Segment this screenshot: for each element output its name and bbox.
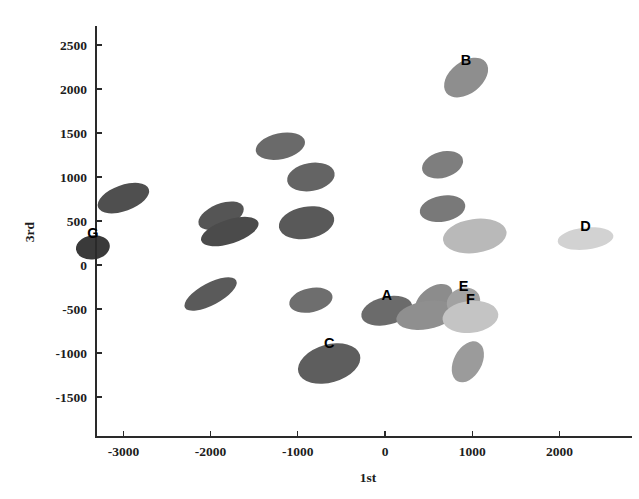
- data-point: [287, 284, 335, 317]
- data-point: [445, 336, 490, 388]
- x-axis-tick-label: 0: [382, 444, 389, 459]
- data-point-layer: [74, 50, 614, 391]
- axis-lines: [96, 26, 632, 437]
- scatter-plot-canvas: -1500-1000-50005001000150020002500-3000-…: [0, 0, 639, 499]
- data-point: [419, 146, 467, 183]
- data-point-label-b: B: [461, 52, 471, 68]
- x-axis-tick-label: -3000: [108, 444, 140, 459]
- data-point: [441, 215, 509, 258]
- y-axis-tick-label: -1000: [56, 346, 88, 361]
- data-point-label-g: G: [87, 225, 98, 241]
- y-axis-tick-label: 2500: [60, 38, 87, 53]
- data-point: [94, 177, 154, 220]
- data-point-label-d: D: [580, 218, 590, 234]
- x-axis-tick-label: 1000: [459, 444, 486, 459]
- data-point: [276, 202, 337, 243]
- axes-layer: -1500-1000-50005001000150020002500-3000-…: [56, 26, 633, 459]
- x-axis-tick-label: 2000: [546, 444, 573, 459]
- y-axis-tick-label: 500: [67, 214, 88, 229]
- y-axis-tick-label: 1000: [60, 170, 87, 185]
- data-point: [285, 159, 337, 195]
- data-point-label-f: F: [466, 291, 475, 307]
- y-axis-tick-label: -500: [62, 302, 87, 317]
- data-point-label-c: C: [324, 335, 335, 351]
- data-point: [253, 128, 307, 164]
- y-axis-tick-label: 0: [80, 258, 87, 273]
- y-axis-tick-label: 1500: [60, 126, 87, 141]
- y-axis-tick-label: 2000: [60, 82, 87, 97]
- data-point-label-a: A: [382, 287, 393, 303]
- y-axis-tick-label: -1500: [56, 390, 88, 405]
- x-axis-title: 1st: [360, 470, 377, 485]
- scatter-plot-figure: -1500-1000-50005001000150020002500-3000-…: [0, 0, 639, 499]
- data-point: [180, 271, 242, 318]
- x-axis-tick-label: -1000: [282, 444, 314, 459]
- point-label-layer: GCABEFD: [87, 52, 591, 351]
- data-point: [418, 192, 468, 226]
- x-axis-tick-label: -2000: [195, 444, 227, 459]
- y-axis-title: 3rd: [22, 221, 37, 242]
